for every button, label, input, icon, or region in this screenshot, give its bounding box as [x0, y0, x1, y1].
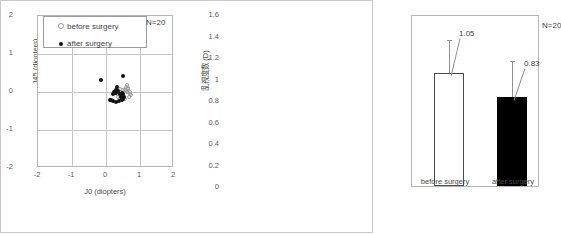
scatter-sample-size-label: N=20: [146, 18, 165, 27]
scatter-xtick-2: 2: [163, 171, 183, 179]
scatter-xtick-neg2: -2: [27, 171, 47, 179]
error-bar-after-surgery: [512, 62, 513, 96]
scatter-legend: before surgery after surgery: [43, 16, 147, 48]
scatter-xtick-0: 0: [95, 171, 115, 179]
bar-value-label-after-surgery: 0.83: [524, 59, 540, 68]
scatter-point-after-0: [99, 78, 103, 82]
bar-value-label-before-surgery: 1.05: [459, 29, 475, 38]
error-bar-cap-after-surgery: [510, 61, 515, 62]
error-bar-before-surgery: [449, 41, 450, 73]
legend-item-before-surgery: before surgery: [56, 20, 146, 33]
error-bar-cap-before-surgery: [447, 40, 452, 41]
bar-y-axis-label: 乱視度数 (D): [199, 28, 210, 114]
bar-plot-area: N=20 1.050.83: [411, 15, 539, 187]
bar-category-before-surgery: before surgery: [411, 177, 479, 186]
scatter-gridline-y-neg1: [38, 130, 172, 131]
scatter-xtick-1: 1: [129, 171, 149, 179]
bar-ytick-0-2: 0.2: [185, 162, 219, 170]
bar-ytick-0: 0: [185, 183, 219, 191]
bar-panel: 1.6 1.4 1.2 1 0.8 0.6 0.4 0.2 0 乱視度数 (D)…: [189, 1, 374, 234]
scatter-point-after-1: [121, 74, 125, 78]
bar-category-after-surgery: after surgery: [479, 177, 547, 186]
scatter-gridline-y-0: [38, 92, 172, 93]
legend-label-after-surgery: after surgery: [67, 39, 112, 48]
scatter-x-axis-label: J0 (diopters): [37, 187, 173, 196]
scatter-ytick-2: 2: [0, 11, 13, 19]
scatter-xtick-neg1: -1: [61, 171, 81, 179]
bar-ytick-1-6: 1.6: [185, 11, 219, 19]
legend-label-before-surgery: before surgery: [67, 22, 119, 31]
bar-ytick-0-6: 0.6: [185, 119, 219, 127]
open-circle-icon: [56, 22, 65, 31]
solid-circle-icon: [56, 39, 65, 48]
bar-ytick-0-4: 0.4: [185, 140, 219, 148]
scatter-ytick-1: 1: [0, 49, 13, 57]
scatter-point-before-19: [126, 87, 130, 91]
scatter-ytick-0: 0: [0, 87, 13, 95]
bar-after-surgery: [497, 97, 527, 186]
bar-before-surgery: [434, 73, 464, 186]
legend-item-after-surgery: after surgery: [56, 37, 146, 50]
bar-value-leader-before-surgery: [451, 39, 461, 77]
bar-sample-size-label: N=20: [542, 21, 561, 30]
scatter-point-before-15: [129, 93, 133, 97]
scatter-ytick-neg2: -2: [0, 163, 13, 171]
scatter-panel: 2 1 0 -1 -2 -2 -1 0 1 2 J45 (diopters) J…: [1, 1, 189, 234]
scatter-ytick-neg1: -1: [0, 125, 13, 133]
bar-value-leader-after-surgery: [514, 68, 526, 100]
scatter-gridline-y-1: [38, 54, 172, 55]
